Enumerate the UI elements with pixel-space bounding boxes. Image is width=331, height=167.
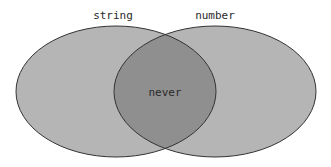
never-label: never: [148, 86, 181, 99]
string-label: string: [93, 9, 133, 22]
venn-diagram: string number never: [0, 0, 331, 167]
number-label: number: [195, 9, 235, 22]
